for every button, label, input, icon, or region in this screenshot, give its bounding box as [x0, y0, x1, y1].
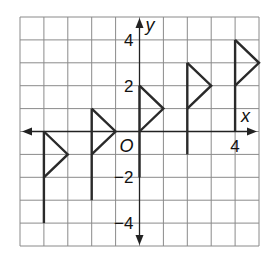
- x-axis-arrow-right-icon: [247, 128, 257, 136]
- x-axis-arrow-left-icon: [22, 128, 32, 136]
- y-axis-arrow-down-icon: [136, 235, 144, 245]
- y-tick-label: 4: [124, 31, 133, 50]
- y-tick-label: −2: [114, 168, 133, 187]
- x-axis-label: x: [240, 106, 251, 126]
- y-tick-label: −4: [114, 214, 133, 233]
- y-axis-arrow-up-icon: [136, 18, 144, 28]
- origin-label: O: [120, 136, 134, 156]
- y-axis-label: y: [144, 15, 156, 35]
- x-tick-label: 4: [230, 137, 239, 156]
- y-tick-label: 2: [124, 77, 133, 96]
- coordinate-plane: xyO42−2−44: [0, 0, 270, 260]
